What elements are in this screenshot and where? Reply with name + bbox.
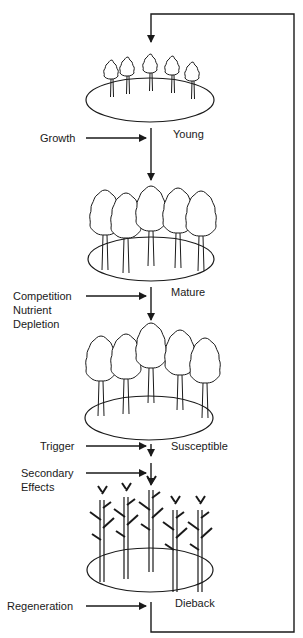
- input-label-depletion: Depletion: [13, 318, 59, 331]
- input-label-trigger: Trigger: [40, 440, 74, 453]
- input-label-effects: Effects: [21, 481, 54, 494]
- stage-young: [86, 54, 214, 122]
- stage-label-susceptible: Susceptible: [171, 440, 228, 453]
- input-label-nutrient: Nutrient: [13, 304, 52, 317]
- stage-label-dieback: Dieback: [175, 597, 215, 610]
- input-label-secondary: Secondary: [21, 467, 74, 480]
- stage-mature: [88, 186, 216, 281]
- input-label-growth: Growth: [40, 132, 75, 145]
- stage-susceptible: [85, 323, 220, 440]
- input-label-competition: Competition: [13, 290, 72, 303]
- input-label-regeneration: Regeneration: [7, 600, 73, 613]
- stage-dieback: [87, 476, 213, 592]
- stage-label-mature: Mature: [171, 286, 205, 299]
- stage-label-young: Young: [173, 128, 204, 141]
